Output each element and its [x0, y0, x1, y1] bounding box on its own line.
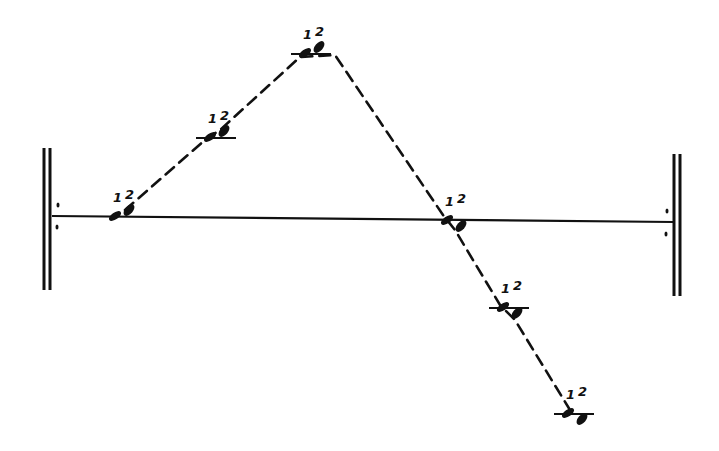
diagram-canvas: 121212121212 [0, 0, 719, 451]
point-p3: 12 [291, 24, 331, 60]
wall-dot [56, 225, 59, 230]
point-p2: 12 [196, 108, 236, 144]
label-2: 2 [578, 384, 587, 399]
label-1: 1 [445, 194, 454, 209]
blob-2 [311, 39, 326, 55]
wall-dot [57, 203, 60, 208]
baseline-string [52, 216, 673, 222]
point-p6: 12 [554, 384, 594, 427]
labeled-points: 121212121212 [107, 24, 594, 427]
right-wall [674, 154, 680, 296]
dashed-displaced-path [125, 55, 570, 410]
label-1: 1 [303, 27, 312, 42]
label-1: 1 [113, 190, 122, 205]
label-1: 1 [566, 387, 575, 402]
label-2: 2 [457, 191, 466, 206]
left-wall [44, 148, 50, 290]
label-2: 2 [220, 108, 229, 123]
label-2: 2 [125, 187, 134, 202]
wall-dot [666, 209, 669, 214]
label-2: 2 [315, 24, 324, 39]
label-2: 2 [513, 278, 522, 293]
label-1: 1 [501, 281, 510, 296]
label-1: 1 [208, 111, 217, 126]
wall-dot [665, 232, 668, 237]
